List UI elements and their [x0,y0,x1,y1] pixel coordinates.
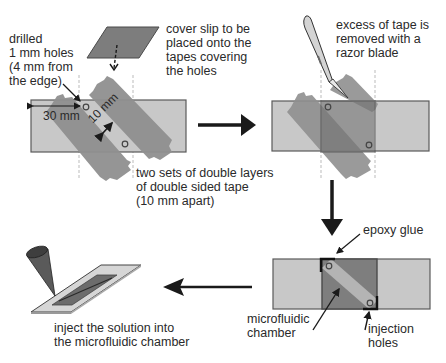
inject-label: inject the solution into the microfluidi… [54,321,189,349]
cover-slip [321,101,375,152]
cover-slip-label: cover slip to be placed onto the tapes c… [166,22,252,78]
pipette-tip-icon [25,244,55,296]
microfluidic-chamber-label: microfluidic chamber [247,312,310,340]
step4-assembly [25,244,141,314]
dimension-30mm-label: 30 mm [43,109,80,123]
holes-label: drilled 1 mm holes (4 mm from the edge) [9,32,74,88]
epoxy-glue-label: epoxy glue [363,223,423,237]
arrow-step1-to-step2-head [241,114,256,136]
cover-slip [87,27,159,58]
injection-holes-label: injection holes [368,322,414,350]
epoxy-pointer [337,234,360,253]
tape-label: two sets of double layers of double side… [136,166,274,208]
slide-edge [31,312,71,314]
arrow-step2-to-step3-head [321,219,343,236]
razor-label: excess of tape is removed with a razor b… [336,18,429,60]
